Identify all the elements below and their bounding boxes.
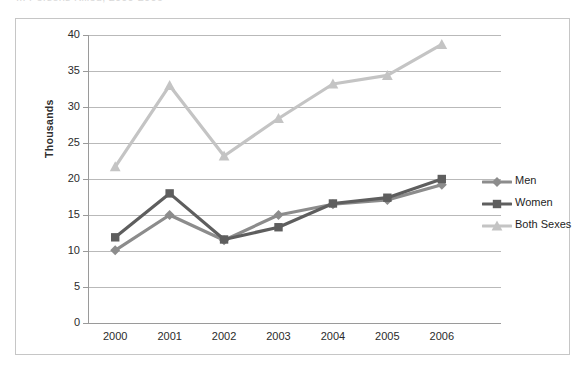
x-axis-tick-label: 2003 [255, 330, 303, 342]
data-point-marker [274, 210, 284, 220]
chart-frame: Thousands MenWomenBoth Sexes 40353025201… [15, 18, 570, 355]
y-axis-tick-label: 10 [54, 244, 80, 256]
y-axis-tick-label: 30 [54, 100, 80, 112]
data-point-marker [436, 39, 447, 49]
chart-title-clipped: ... Persons Killed, 2000-2006 [16, 0, 436, 5]
y-axis-tick-label: 40 [54, 28, 80, 40]
data-point-marker [493, 200, 501, 208]
data-point-marker [111, 233, 119, 241]
data-point-marker [220, 235, 228, 243]
x-axis-tick-label: 2002 [200, 330, 248, 342]
legend-item-women[interactable]: Women [482, 191, 582, 213]
legend-square-icon [482, 196, 512, 208]
legend-item-label: Women [515, 196, 553, 208]
data-point-marker [492, 177, 502, 187]
y-axis-tick-label: 15 [54, 208, 80, 220]
series-both-sexes [110, 39, 447, 171]
legend-item-men[interactable]: Men [482, 169, 582, 191]
y-axis-tick-label: 5 [54, 280, 80, 292]
y-axis-tick-label: 0 [54, 316, 80, 328]
data-point-marker [329, 199, 337, 207]
data-point-marker [274, 223, 282, 231]
legend-item-label: Both Sexes [515, 218, 571, 230]
series-men [110, 180, 447, 256]
y-axis-tick-label: 25 [54, 136, 80, 148]
x-axis-tick-label: 2000 [91, 330, 139, 342]
y-axis-tick-label: 35 [54, 64, 80, 76]
legend-item-both-sexes[interactable]: Both Sexes [482, 213, 582, 235]
chart-legend: MenWomenBoth Sexes [482, 169, 582, 235]
data-point-marker [165, 189, 173, 197]
legend-triangle-icon [482, 218, 512, 230]
x-axis-tick-label: 2005 [363, 330, 411, 342]
data-point-marker [383, 194, 391, 202]
x-axis-tick-label: 2001 [146, 330, 194, 342]
data-point-marker [438, 175, 446, 183]
x-axis-tick-label: 2006 [418, 330, 466, 342]
legend-diamond-icon [482, 174, 512, 186]
data-point-marker [164, 80, 175, 90]
y-axis-tick-label: 20 [54, 172, 80, 184]
legend-item-label: Men [515, 174, 536, 186]
x-axis-tick-label: 2004 [309, 330, 357, 342]
series-women [111, 175, 446, 244]
